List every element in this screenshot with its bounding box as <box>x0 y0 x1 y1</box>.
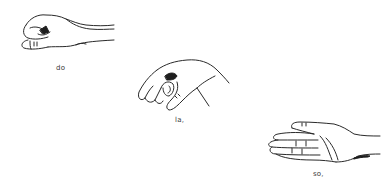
label-do: do <box>56 64 65 72</box>
fist-hand-icon <box>16 10 116 55</box>
hand-sign-so <box>262 120 382 165</box>
label-so: so, <box>313 170 324 178</box>
hand-sign-la <box>135 58 235 118</box>
flat-hand-icon <box>262 120 382 165</box>
hand-sign-do <box>16 10 116 55</box>
drooping-hand-icon <box>135 58 235 118</box>
label-la: la, <box>175 116 184 124</box>
